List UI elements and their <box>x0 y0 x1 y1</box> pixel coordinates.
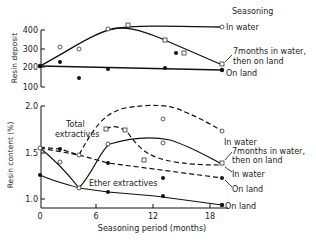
total-7mo-line <box>106 127 222 165</box>
top-label-on-land: On land <box>226 69 257 78</box>
ytick-top-400: 400 <box>23 26 38 35</box>
xtick-18: 18 <box>205 212 215 221</box>
bot-label-7mo-2: then on land <box>232 156 283 165</box>
bot-label-in-water-1: In water <box>224 138 257 147</box>
annotation-total-1: Total <box>65 120 85 129</box>
annotation-total-2: extractives <box>55 130 99 139</box>
top-label-7mo-1: 7months in water, <box>233 47 306 56</box>
ytick-top-200: 200 <box>23 63 38 72</box>
xlabel: Seasoning period (months) <box>98 224 206 233</box>
top-on-land-line <box>40 66 222 70</box>
bot-label-7mo-1: 7months in water, <box>232 147 305 156</box>
top-panel <box>40 26 222 87</box>
bottom-arrows <box>225 152 232 187</box>
resin-chart: Seasoning In water 7months in water, the… <box>0 0 316 243</box>
ytick-top-100: 100 <box>23 83 38 92</box>
ylabel-top: Resin deposit <box>10 33 19 83</box>
xtick-12: 12 <box>148 212 158 221</box>
top-label-in-water: In water <box>226 23 259 32</box>
top-in-water-line <box>40 26 220 66</box>
annotation-ether: Ether extractives <box>89 179 157 188</box>
ylabel-bottom: Resin content (%) <box>6 122 15 189</box>
top-7mo-line <box>112 28 220 64</box>
top-7mo-arrow <box>225 55 232 62</box>
ytick-bottom-1-5: 1.5 <box>25 149 38 158</box>
ytick-top-300: 300 <box>23 45 38 54</box>
ytick-bottom-1: 1.0 <box>25 195 38 204</box>
top-label-7mo-2: then on land <box>233 57 284 66</box>
bot-label-in-water-2: In water <box>232 170 265 179</box>
ytick-bottom-2: 2.0 <box>25 102 38 111</box>
xtick-0: 0 <box>37 212 42 221</box>
bot-label-on-land-1: On land <box>232 185 263 194</box>
xtick-6: 6 <box>93 212 98 221</box>
legend-title: Seasoning <box>232 7 273 16</box>
bot-label-on-land-2: On land <box>225 202 256 211</box>
